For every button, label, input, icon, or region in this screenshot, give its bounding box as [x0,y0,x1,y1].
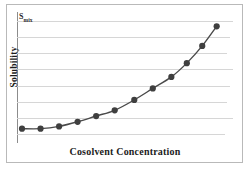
data-point [75,119,81,125]
data-point [131,97,137,103]
data-point [112,107,118,113]
data-series-svg [17,14,233,141]
plot-area [17,14,233,141]
data-point [56,123,62,129]
smix-subscript: mix [24,17,33,23]
data-point [199,43,205,49]
series-markers-group [19,23,220,132]
data-point [184,60,190,66]
x-axis-label: Cosolvent Concentration [17,146,233,157]
data-point [150,85,156,91]
data-point [168,74,174,80]
data-point [214,23,220,29]
data-point [37,126,43,132]
series-line [22,26,217,129]
y-axis-label: Solubility [9,32,19,102]
data-point [19,126,25,132]
smix-annotation: Smix [19,12,33,25]
data-point [93,113,99,119]
figure-container: Smix Solubility Cosolvent Concentration [0,0,249,172]
